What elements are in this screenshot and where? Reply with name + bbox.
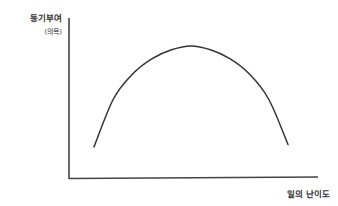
x-axis-line [69,177,318,179]
motivation-curve [94,46,288,147]
x-axis-label: 일의 난이도 [287,187,330,199]
chart-plot-area [0,0,338,206]
